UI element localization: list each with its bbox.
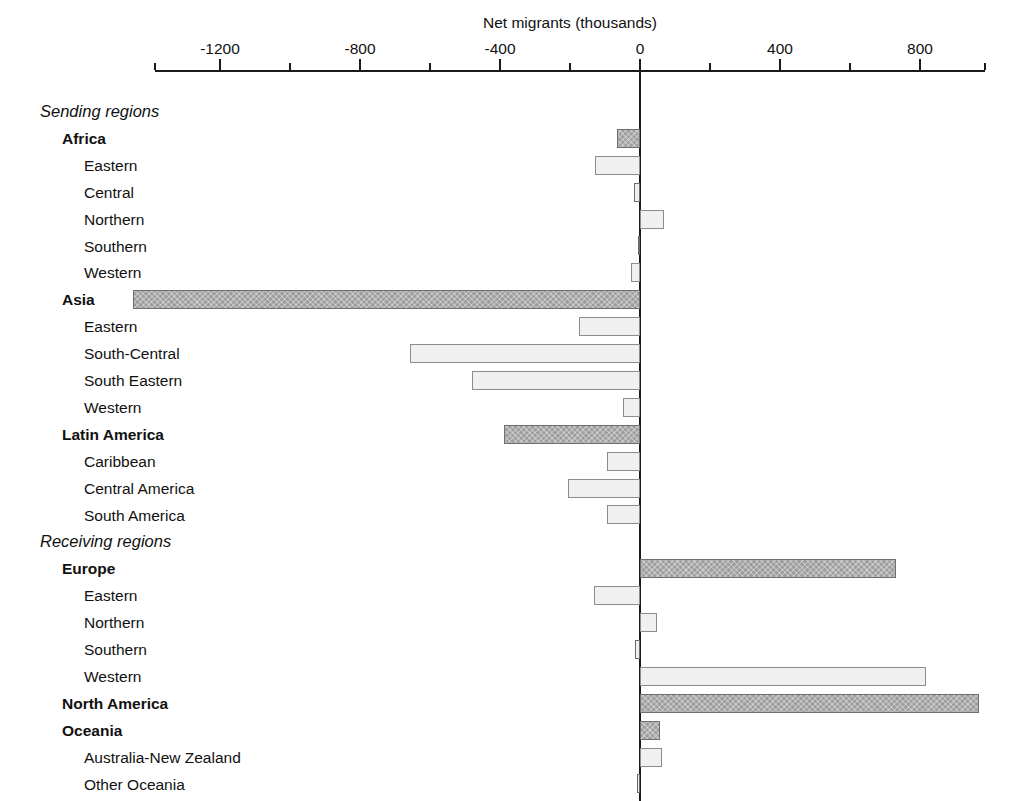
row-label: Central America [84, 481, 194, 497]
chart-row: South Eastern [0, 369, 1019, 396]
bar [595, 156, 640, 175]
chart-row: Europe [0, 557, 1019, 584]
bar [640, 667, 926, 686]
row-label: Europe [62, 561, 115, 577]
bar [410, 344, 640, 363]
chart-row: Australia-New Zealand [0, 746, 1019, 773]
row-label: Southern [84, 642, 147, 658]
bar [640, 721, 660, 740]
bar [634, 183, 640, 202]
row-label: Western [84, 400, 141, 416]
chart-row: Oceania [0, 719, 1019, 746]
chart-row: Southern [0, 235, 1019, 262]
bar [607, 505, 640, 524]
chart-row: Eastern [0, 154, 1019, 181]
bar [504, 425, 640, 444]
row-label: Northern [84, 212, 144, 228]
row-label: Oceania [62, 723, 122, 739]
row-label: Northern [84, 615, 144, 631]
row-label: Receiving regions [40, 533, 171, 550]
chart-row: North America [0, 692, 1019, 719]
chart-row: Asia [0, 288, 1019, 315]
bar [579, 317, 640, 336]
row-label: Asia [62, 292, 95, 308]
row-label: South Eastern [84, 373, 182, 389]
chart-row: Northern [0, 208, 1019, 235]
bar [594, 586, 640, 605]
row-label: Western [84, 265, 141, 281]
chart-row: South-Central [0, 342, 1019, 369]
row-label: North America [62, 696, 168, 712]
chart-row: Africa [0, 127, 1019, 154]
row-label: South America [84, 508, 185, 524]
bar [640, 694, 979, 713]
row-label: Latin America [62, 427, 164, 443]
bar [638, 236, 641, 255]
chart-row: Western [0, 665, 1019, 692]
row-label: Southern [84, 239, 147, 255]
bar [617, 129, 640, 148]
row-label: Central [84, 185, 134, 201]
bar [607, 452, 640, 471]
bar [637, 774, 640, 793]
bar [640, 613, 657, 632]
row-label: Sending regions [40, 103, 159, 120]
bar [640, 559, 896, 578]
bar [568, 479, 640, 498]
chart-row: Western [0, 261, 1019, 288]
chart-row: Caribbean [0, 450, 1019, 477]
chart-row: Receiving regions [0, 530, 1019, 557]
row-label: Caribbean [84, 454, 156, 470]
chart-row: Central America [0, 477, 1019, 504]
row-label: South-Central [84, 346, 180, 362]
bar [640, 748, 662, 767]
row-label: Western [84, 669, 141, 685]
chart-row: Western [0, 396, 1019, 423]
row-label: Eastern [84, 588, 137, 604]
chart-row: Eastern [0, 584, 1019, 611]
bar [133, 290, 641, 309]
chart-row: Northern [0, 611, 1019, 638]
row-label: Eastern [84, 319, 137, 335]
row-label: Eastern [84, 158, 137, 174]
row-label: Africa [62, 131, 106, 147]
bar [635, 640, 640, 659]
chart-row: Southern [0, 638, 1019, 665]
bar [472, 371, 640, 390]
chart-row: South America [0, 504, 1019, 531]
row-label: Australia-New Zealand [84, 750, 241, 766]
bar [640, 210, 664, 229]
chart-row: Central [0, 181, 1019, 208]
bar [623, 398, 640, 417]
chart-row: Latin America [0, 423, 1019, 450]
bar [631, 263, 640, 282]
chart-row: Other Oceania [0, 773, 1019, 800]
chart-row: Sending regions [0, 100, 1019, 127]
chart-row: Eastern [0, 315, 1019, 342]
row-label: Other Oceania [84, 777, 185, 793]
